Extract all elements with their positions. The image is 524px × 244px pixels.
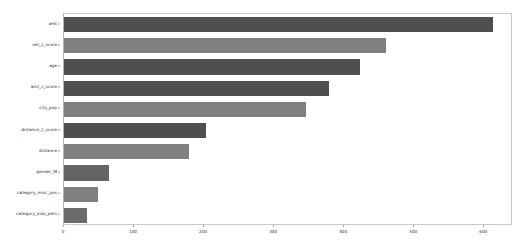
y-tick-mark xyxy=(58,87,60,88)
x-tick-mark xyxy=(133,225,134,227)
x-tick-mark xyxy=(413,225,414,227)
bar-row xyxy=(64,120,206,141)
y-tick-mark xyxy=(58,66,60,67)
x-tick-label: 600 xyxy=(479,229,487,234)
y-tick-label: city_pop xyxy=(39,106,57,110)
bar-row xyxy=(64,78,329,99)
y-tick-label: gender_M xyxy=(36,170,57,174)
x-tick-mark xyxy=(273,225,274,227)
x-tick-label: 0 xyxy=(62,229,65,234)
y-axis-title: feature_name xyxy=(0,0,14,14)
x-tick: 0 xyxy=(62,225,65,234)
bar xyxy=(64,81,329,96)
bar-row xyxy=(64,14,493,35)
x-tick-mark xyxy=(203,225,204,227)
bar-chart-figure: feature_name amtnet_z_scoreageamt_z_scor… xyxy=(0,0,524,244)
x-tick-mark xyxy=(63,225,64,227)
bar-row xyxy=(64,141,189,162)
x-tick: 100 xyxy=(129,225,137,234)
y-tick-label: distance xyxy=(39,149,57,153)
y-tick-mark xyxy=(58,150,60,151)
y-tick-mark xyxy=(58,193,60,194)
x-tick-label: 100 xyxy=(129,229,137,234)
bar xyxy=(64,187,98,202)
y-tick-mark xyxy=(58,214,60,215)
bar xyxy=(64,102,306,117)
bar xyxy=(64,165,109,180)
x-tick-label: 300 xyxy=(269,229,277,234)
y-tick-mark xyxy=(58,172,60,173)
bar-row xyxy=(64,162,109,183)
y-axis-tick-labels: amtnet_z_scoreageamt_z_scorecity_popdist… xyxy=(0,13,60,225)
x-tick: 600 xyxy=(479,225,487,234)
bar-row xyxy=(64,56,360,77)
x-tick-label: 200 xyxy=(199,229,207,234)
bar xyxy=(64,38,386,53)
y-tick-mark xyxy=(58,108,60,109)
y-tick-label: distance_z_score xyxy=(21,128,57,132)
x-tick-mark xyxy=(343,225,344,227)
x-tick-mark xyxy=(483,225,484,227)
x-tick: 200 xyxy=(199,225,207,234)
x-axis-tick-labels: 0100200300400500600 xyxy=(63,225,512,244)
y-tick-label: amt xyxy=(49,22,57,26)
y-tick-mark xyxy=(58,23,60,24)
y-tick-label: net_z_score xyxy=(32,43,57,47)
y-tick-mark xyxy=(58,44,60,45)
y-tick-label: amt_z_score xyxy=(31,85,57,89)
x-tick: 300 xyxy=(269,225,277,234)
bar-row xyxy=(64,99,306,120)
plot-area xyxy=(63,13,512,225)
y-tick-label: age xyxy=(49,64,57,68)
x-tick: 500 xyxy=(409,225,417,234)
x-tick-label: 500 xyxy=(409,229,417,234)
bar-row xyxy=(64,205,87,226)
y-tick-label: category_kids_pets xyxy=(16,212,57,216)
bar xyxy=(64,59,360,74)
bar-row xyxy=(64,184,98,205)
y-tick-mark xyxy=(58,129,60,130)
bar xyxy=(64,17,493,32)
y-tick-label: category_misc_pos xyxy=(17,191,57,195)
bar xyxy=(64,123,206,138)
bar xyxy=(64,144,189,159)
bar xyxy=(64,208,87,223)
x-tick-label: 400 xyxy=(339,229,347,234)
bar-row xyxy=(64,35,386,56)
x-tick: 400 xyxy=(339,225,347,234)
